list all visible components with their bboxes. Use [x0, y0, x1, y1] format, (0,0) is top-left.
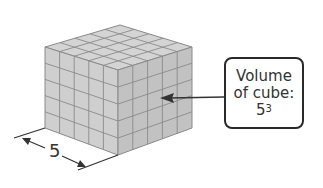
cube-5x5x5	[45, 25, 192, 155]
volume-callout-box: Volume of cube: 53	[224, 57, 304, 129]
callout-line-1: Volume	[236, 68, 292, 85]
formula-exponent: 3	[266, 103, 272, 114]
edge-length-label: 5	[49, 140, 60, 161]
callout-line-2: of cube:	[234, 85, 295, 102]
formula-base: 5	[256, 101, 266, 119]
callout-formula: 53	[256, 102, 272, 119]
